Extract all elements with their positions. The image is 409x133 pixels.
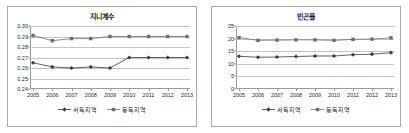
x-tick-mark	[353, 89, 354, 91]
y-tick-label: 10	[228, 61, 234, 67]
legend-item[interactable]: 서독지역	[262, 105, 301, 114]
x-tick-label: 2007	[65, 92, 77, 98]
data-point-marker	[166, 55, 170, 59]
y-tick-label: 25	[228, 23, 234, 29]
x-tick-label: 2013	[181, 92, 193, 98]
x-tick-label: 2013	[385, 92, 397, 98]
x-tick-mark	[33, 89, 34, 91]
x-tick-mark	[129, 89, 130, 91]
data-point-marker	[294, 38, 297, 41]
x-tick-label: 2006	[252, 92, 264, 98]
x-tick-label: 2008	[290, 92, 302, 98]
gini-plot-area: 0.300.290.280.270.260.250.24 20052006200…	[30, 26, 190, 89]
legend-label: 동독지역	[122, 105, 146, 114]
x-tick-label: 2010	[123, 92, 135, 98]
legend-label: 서독지역	[277, 105, 301, 114]
data-point-marker	[256, 39, 259, 42]
y-tick-label: 0.26	[17, 65, 28, 71]
figure-root: 지니계수 0.300.290.280.270.260.250.24 200520…	[0, 0, 409, 133]
data-point-marker	[108, 66, 112, 70]
x-tick-mark	[91, 89, 92, 91]
y-tick-label: 5	[231, 73, 234, 79]
legend-square-icon	[311, 106, 324, 113]
legend-diamond-icon	[262, 106, 275, 113]
x-tick-mark	[258, 89, 259, 91]
poverty-legend: 서독지역동독지역	[212, 105, 400, 114]
legend-item[interactable]: 서독지역	[58, 105, 97, 114]
data-point-marker	[256, 55, 260, 59]
y-tick-label: 0.29	[17, 34, 28, 40]
legend-item[interactable]: 동독지역	[311, 105, 350, 114]
data-point-marker	[69, 66, 73, 70]
data-point-marker	[237, 54, 241, 58]
data-point-marker	[146, 55, 150, 59]
data-point-marker	[351, 38, 354, 41]
data-point-marker	[389, 36, 392, 39]
y-tick-label: 15	[228, 48, 234, 54]
data-point-marker	[185, 55, 189, 59]
data-point-marker	[275, 55, 279, 59]
x-tick-mark	[391, 89, 392, 91]
gini-chart-panel: 지니계수 0.300.290.280.270.260.250.24 200520…	[7, 6, 197, 127]
x-tick-label: 2011	[143, 92, 155, 98]
data-point-marker	[389, 51, 393, 55]
legend-diamond-icon	[58, 106, 71, 113]
x-tick-label: 2008	[85, 92, 97, 98]
x-tick-label: 2005	[233, 92, 245, 98]
x-tick-mark	[296, 89, 297, 91]
data-point-marker	[313, 38, 316, 41]
x-tick-label: 2006	[46, 92, 58, 98]
data-point-marker	[31, 34, 34, 37]
x-tick-mark	[187, 89, 188, 91]
data-point-marker	[166, 35, 169, 38]
gini-series-layer	[30, 26, 190, 89]
data-point-marker	[51, 39, 54, 42]
data-point-marker	[237, 36, 240, 39]
x-tick-mark	[239, 89, 240, 91]
data-point-marker	[70, 37, 73, 40]
y-tick-label: 0.30	[17, 23, 28, 29]
poverty-series-layer	[236, 26, 394, 89]
legend-label: 서독지역	[73, 105, 97, 114]
data-point-marker	[294, 54, 298, 58]
gini-legend: 서독지역동독지역	[8, 105, 196, 114]
x-tick-label: 2009	[104, 92, 116, 98]
legend-label: 동독지역	[326, 105, 350, 114]
x-tick-mark	[168, 89, 169, 91]
data-point-marker	[89, 37, 92, 40]
y-tick-label: 20	[228, 36, 234, 42]
data-point-marker	[108, 35, 111, 38]
data-point-marker	[31, 61, 35, 65]
data-point-marker	[370, 52, 374, 56]
data-point-marker	[332, 39, 335, 42]
x-tick-mark	[315, 89, 316, 91]
x-tick-label: 2012	[162, 92, 174, 98]
x-tick-mark	[52, 89, 53, 91]
x-tick-mark	[372, 89, 373, 91]
data-point-marker	[351, 53, 355, 57]
data-point-marker	[275, 38, 278, 41]
poverty-chart-panel: 빈곤율 2520151050 2005200620072008200920102…	[211, 6, 401, 127]
legend-item[interactable]: 동독지역	[107, 105, 146, 114]
data-point-marker	[128, 35, 131, 38]
x-tick-mark	[72, 89, 73, 91]
x-tick-label: 2005	[27, 92, 39, 98]
legend-square-icon	[107, 106, 120, 113]
x-tick-mark	[277, 89, 278, 91]
data-point-marker	[332, 54, 336, 58]
y-tick-label: 0.28	[17, 44, 28, 50]
poverty-plot-area: 2520151050 20052006200720082009201020112…	[236, 26, 394, 89]
data-point-marker	[50, 65, 54, 69]
data-point-marker	[313, 54, 317, 58]
gini-chart-title: 지니계수	[8, 11, 196, 21]
poverty-chart-title: 빈곤율	[212, 11, 400, 21]
x-tick-mark	[149, 89, 150, 91]
data-point-marker	[89, 65, 93, 69]
y-tick-label: 0.25	[17, 76, 28, 82]
data-point-marker	[185, 35, 188, 38]
x-tick-label: 2009	[309, 92, 321, 98]
x-tick-label: 2007	[271, 92, 283, 98]
x-tick-label: 2011	[347, 92, 359, 98]
y-tick-label: 0.27	[17, 55, 28, 61]
data-point-marker	[370, 37, 373, 40]
